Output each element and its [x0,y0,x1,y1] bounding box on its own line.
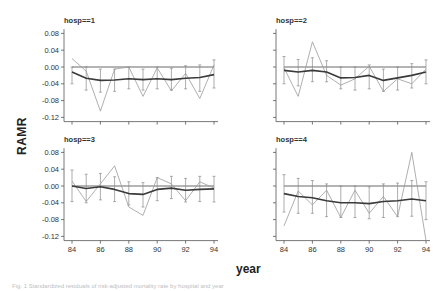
y-tick-label: -0.08 [42,215,59,224]
panel-hosp-3: hosp==30.080.040.00-0.04-0.08-0.12848688… [42,135,218,253]
y-tick-label: 0.00 [44,182,59,191]
panel-title: hosp==4 [276,135,308,144]
y-axis-label: RAMR [15,125,31,155]
y-tick-label: -0.04 [42,79,59,88]
x-tick-label: 92 [393,245,401,254]
panel-hosp-4: hosp==4848688909294 [273,135,430,253]
x-tick-label: 84 [280,245,288,254]
x-tick-label: 90 [365,245,373,254]
y-tick-label: 0.00 [44,63,59,72]
x-tick-label: 88 [125,245,133,254]
chart-figure: hosp==10.080.040.00-0.04-0.08-0.12hosp==… [0,0,446,291]
panel-hosp-1: hosp==10.080.040.00-0.04-0.08-0.12 [42,16,218,124]
panel-title: hosp==1 [64,16,95,25]
y-tick-label: 0.08 [44,29,59,38]
y-tick-label: -0.12 [42,232,59,241]
panel-hosp-2: hosp==2 [273,16,430,124]
x-tick-label: 86 [96,245,104,254]
x-tick-label: 88 [337,245,345,254]
x-tick-label: 92 [181,245,189,254]
y-tick-label: 0.04 [44,165,59,174]
y-tick-label: 0.04 [44,46,59,55]
x-tick-label: 94 [422,245,430,254]
x-tick-label: 84 [68,245,76,254]
x-tick-label: 90 [153,245,161,254]
y-tick-label: 0.08 [44,148,59,157]
panel-title: hosp==3 [64,135,95,144]
panel-title: hosp==2 [276,16,307,25]
x-tick-label: 86 [308,245,316,254]
y-tick-label: -0.12 [42,113,59,122]
y-tick-label: -0.08 [42,96,59,105]
figure-caption: Fig. 1 Standardized residuals of risk-ad… [12,283,224,289]
x-axis-label: year [236,262,261,276]
y-tick-label: -0.04 [42,198,59,207]
x-tick-label: 94 [210,245,218,254]
